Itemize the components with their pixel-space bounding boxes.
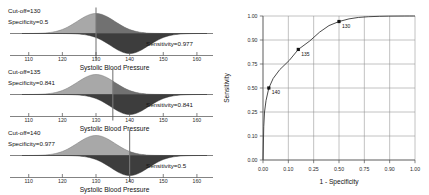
x-tick-label: 130 xyxy=(92,178,101,184)
roc-x-tick-label: 0.10 xyxy=(283,166,293,172)
x-tick-label: 160 xyxy=(193,56,202,62)
sensitivity-annotation: Sensitivity=0.5 xyxy=(146,162,187,169)
cutoff-annotation: Cut-off=130 xyxy=(8,7,41,14)
roc-y-tick-label: 0.75 xyxy=(247,61,257,67)
x-tick-label: 160 xyxy=(193,178,202,184)
false-positive-region xyxy=(113,81,207,94)
roc-x-axis-title: 1 - Specificity xyxy=(319,178,359,186)
specificity-annotation: Specificity=0.841 xyxy=(8,79,56,86)
roc-y-tick-label: 0.10 xyxy=(247,133,257,139)
roc-point-label: 140 xyxy=(272,89,281,95)
roc-figure: 110120130140150160Systolic Blood Pressur… xyxy=(0,0,429,195)
roc-x-tick-label: 0.50 xyxy=(334,166,344,172)
x-tick-label: 130 xyxy=(92,117,101,123)
x-tick-label: 160 xyxy=(193,117,202,123)
x-tick-label: 140 xyxy=(125,178,134,184)
roc-x-tick-label: 1.00 xyxy=(410,166,420,172)
x-tick-label: 120 xyxy=(58,56,67,62)
specificity-annotation: Specificity=0.977 xyxy=(8,140,56,147)
roc-x-tick-label: 0.75 xyxy=(359,166,369,172)
false-positive-region xyxy=(130,151,207,155)
panel-x-axis-title: Systolic Blood Pressure xyxy=(80,186,150,194)
false-positive-region xyxy=(96,14,207,34)
roc-curve-svg: 1401351300.000.100.250.500.750.901.000.0… xyxy=(215,0,429,195)
roc-y-tick-label: 0.90 xyxy=(247,37,257,43)
x-tick-label: 110 xyxy=(25,56,33,62)
sensitivity-annotation: Sensitivity=0.977 xyxy=(146,40,194,47)
x-tick-label: 120 xyxy=(58,117,67,123)
roc-curve-panel: 1401351300.000.100.250.500.750.901.000.0… xyxy=(215,0,429,195)
sensitivity-annotation: Sensitivity=0.841 xyxy=(146,101,194,108)
roc-x-tick-label: 0.90 xyxy=(385,166,395,172)
roc-point-label: 135 xyxy=(301,51,310,57)
x-tick-label: 150 xyxy=(159,178,168,184)
roc-y-axis-title: Sensitivity xyxy=(223,72,231,102)
roc-point-marker xyxy=(267,86,270,89)
panel-cutoff-130: 110120130140150160Systolic Blood Pressur… xyxy=(8,7,213,73)
roc-y-tick-label: 0.25 xyxy=(247,109,257,115)
cutoff-annotation: Cut-off=135 xyxy=(8,68,41,75)
x-tick-label: 150 xyxy=(159,56,168,62)
x-tick-label: 110 xyxy=(25,117,33,123)
roc-y-tick-label: 0.00 xyxy=(247,157,257,163)
x-tick-label: 140 xyxy=(125,117,134,123)
panel-cutoff-135: 110120130140150160Systolic Blood Pressur… xyxy=(8,68,213,134)
roc-y-tick-label: 1.00 xyxy=(247,13,257,19)
distribution-panels-svg: 110120130140150160Systolic Blood Pressur… xyxy=(0,0,215,195)
specificity-annotation: Specificity=0.5 xyxy=(8,18,49,25)
x-tick-label: 140 xyxy=(125,56,134,62)
roc-point-marker xyxy=(297,48,300,51)
x-tick-label: 120 xyxy=(58,178,67,184)
cutoff-annotation: Cut-off=140 xyxy=(8,129,41,136)
roc-point-marker xyxy=(337,20,340,23)
panel-cutoff-140: 110120130140150160Systolic Blood Pressur… xyxy=(8,129,213,195)
x-tick-label: 130 xyxy=(92,56,101,62)
panel-x-axis-title: Systolic Blood Pressure xyxy=(80,64,150,72)
distribution-panels: 110120130140150160Systolic Blood Pressur… xyxy=(0,0,215,195)
x-tick-label: 150 xyxy=(159,117,168,123)
roc-y-tick-label: 0.50 xyxy=(247,85,257,91)
roc-point-label: 130 xyxy=(342,23,351,29)
roc-plot: 1401351300.000.100.250.500.750.901.000.0… xyxy=(223,13,420,186)
x-tick-label: 110 xyxy=(25,178,33,184)
panel-x-axis-title: Systolic Blood Pressure xyxy=(80,125,150,133)
roc-x-tick-label: 0.00 xyxy=(258,166,268,172)
roc-x-tick-label: 0.25 xyxy=(309,166,319,172)
